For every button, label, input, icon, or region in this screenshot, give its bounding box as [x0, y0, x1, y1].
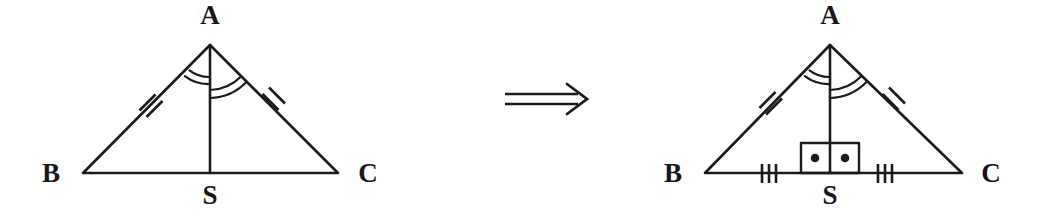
right-angle-arcs-left-side: [805, 70, 830, 84]
right-angle-arcs-right-side: [830, 77, 867, 99]
right-vertex-label-A: A: [820, 0, 840, 30]
implies-double-arrow-icon: [505, 84, 587, 114]
angle-arc-inner-left: [810, 70, 831, 77]
left-vertex-label-B: B: [42, 158, 60, 188]
right-side-ticks-AC: [883, 88, 906, 111]
left-vertex-label-C: C: [358, 158, 378, 188]
left-side-ticks-AC: [263, 88, 286, 111]
geometry-figure: A B C S: [0, 0, 1051, 216]
figure-canvas: A B C S: [0, 0, 1051, 216]
left-triangle-group: A B C S: [42, 0, 378, 210]
right-triangle-outline: [705, 45, 962, 173]
angle-arc-inner-left: [190, 70, 211, 77]
right-side-ticks-AB: [760, 92, 783, 115]
right-vertex-label-S: S: [822, 180, 837, 210]
left-vertex-label-S: S: [202, 180, 217, 210]
right-vertex-label-B: B: [664, 158, 682, 188]
right-angle-dot-left: [811, 154, 820, 163]
right-angle-dot-right: [841, 154, 850, 163]
left-vertex-label-A: A: [200, 0, 220, 30]
angle-arc-inner-right: [830, 77, 861, 91]
right-vertex-label-C: C: [981, 158, 1001, 188]
right-triangle-group: A B C S: [664, 0, 1001, 210]
left-angle-arcs-left-side: [185, 70, 210, 84]
left-angle-arcs-right-side: [210, 77, 247, 99]
tick-AB-2: [147, 101, 163, 117]
angle-arc-inner-right: [210, 77, 241, 91]
arrow-head: [567, 84, 587, 114]
